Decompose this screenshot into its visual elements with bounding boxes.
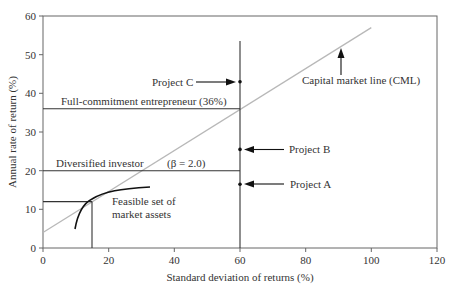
y-axis: 0 10 20 30 40 50 60 [25, 10, 43, 254]
x-tick-label: 80 [300, 254, 312, 266]
x-axis: 0 20 40 60 80 100 120 [40, 248, 446, 266]
y-tick-label: 50 [25, 49, 37, 61]
project-a-label: Project A [290, 178, 331, 190]
project-c-label: Project C [152, 76, 193, 88]
cml-chart: 0 10 20 30 40 50 60 0 20 40 60 80 100 12… [0, 0, 460, 292]
x-tick-label: 40 [169, 254, 181, 266]
x-tick-label: 20 [103, 254, 115, 266]
project-b-point [238, 148, 242, 152]
y-tick-label: 60 [25, 10, 37, 22]
diversified-investor-label: Diversified investor [56, 157, 144, 169]
y-axis-title: Annual rate of return (%) [6, 76, 19, 188]
x-tick-label: 120 [429, 254, 446, 266]
beta-label: (β = 2.0) [167, 157, 206, 170]
arrow-up-icon [338, 48, 345, 58]
full-commitment-label: Full-commitment entrepreneur (36%) [61, 95, 227, 108]
y-tick-label: 10 [25, 203, 37, 215]
y-tick-label: 40 [25, 87, 37, 99]
arrow-right-icon [226, 79, 236, 86]
x-axis-title: Standard deviation of returns (%) [166, 271, 314, 284]
y-tick-label: 30 [25, 126, 37, 138]
y-tick-label: 20 [25, 165, 37, 177]
arrow-left-icon [244, 146, 254, 153]
x-tick-label: 100 [363, 254, 380, 266]
feasible-set-label-1: Feasible set of [112, 195, 176, 207]
y-tick-label: 0 [31, 242, 37, 254]
project-b-label: Project B [289, 143, 330, 155]
project-c-point [238, 80, 242, 84]
cml-label: Capital market line (CML) [302, 74, 421, 87]
arrow-left-icon [244, 181, 254, 188]
project-a-point [238, 182, 242, 186]
x-tick-label: 0 [40, 254, 46, 266]
x-tick-label: 60 [235, 254, 247, 266]
arrows [196, 48, 345, 188]
feasible-set-label-2: market assets [112, 208, 171, 220]
